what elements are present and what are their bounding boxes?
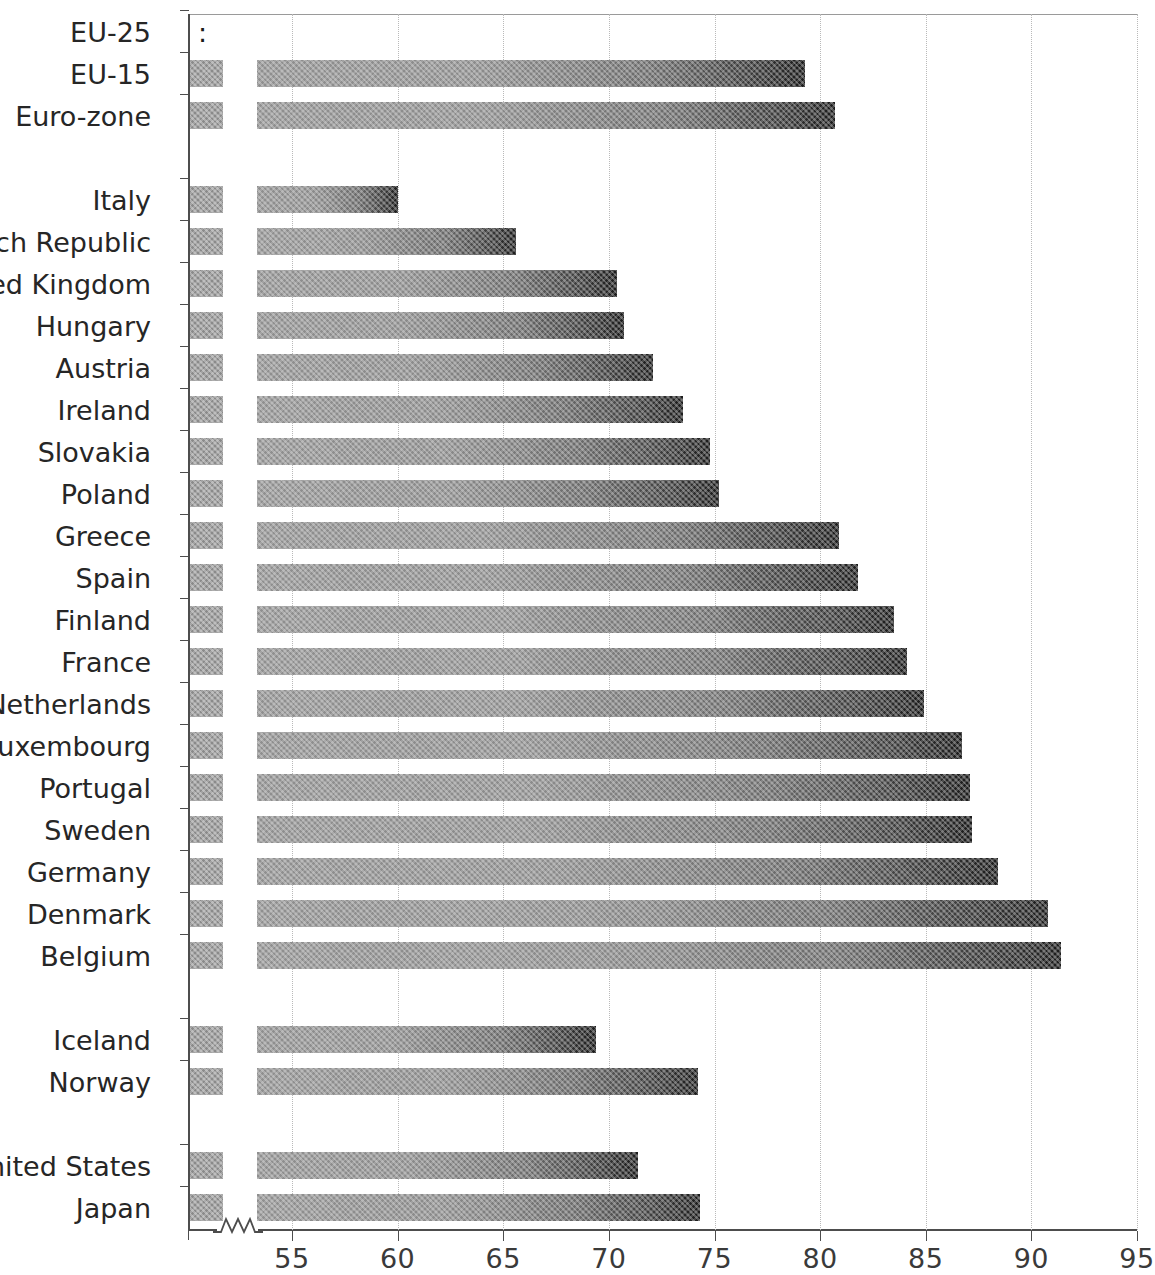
bar-fill (257, 102, 835, 129)
y-tick-mark (180, 808, 189, 809)
x-tick-label-80: 80 (780, 1243, 860, 1274)
category-label-austria: Austria (0, 355, 151, 382)
x-tick-label-90: 90 (991, 1243, 1071, 1274)
bar-fill (257, 606, 894, 633)
bar-united-states (257, 1152, 638, 1179)
bar-stub-eu-15 (190, 60, 223, 87)
bar-stub-japan (190, 1194, 223, 1221)
category-label-eu-25: EU-25 (0, 19, 151, 46)
bar-fill (257, 690, 924, 717)
bar-stub-slovakia (190, 438, 223, 465)
gridline-85 (926, 14, 927, 1230)
y-tick-mark (180, 892, 189, 893)
bar-fill (257, 1194, 700, 1221)
category-label-italy: Italy (0, 187, 151, 214)
bar-denmark (257, 900, 1048, 927)
category-label-slovakia: Slovakia (0, 439, 151, 466)
category-label-sweden: Sweden (0, 817, 151, 844)
bar-czech-republic (257, 228, 516, 255)
bar-stub-hungary (190, 312, 223, 339)
bar-fill (257, 942, 1061, 969)
bar-stub-iceland (190, 1026, 223, 1053)
y-tick-mark (180, 640, 189, 641)
bar-stub-finland (190, 606, 223, 633)
bar-fill (257, 816, 972, 843)
x-tick-label-60: 60 (358, 1243, 438, 1274)
y-tick-mark (180, 724, 189, 725)
category-label-japan: Japan (0, 1195, 151, 1222)
bar-japan (257, 1194, 700, 1221)
bar-stub-greece (190, 522, 223, 549)
y-tick-mark (180, 304, 189, 305)
bar-fill (257, 1026, 596, 1053)
category-label-ireland: Ireland (0, 397, 151, 424)
category-label-united-kingdom: United Kingdom (0, 271, 151, 298)
bar-germany (257, 858, 998, 885)
category-label-denmark: Denmark (0, 901, 151, 928)
bar-stub-ireland (190, 396, 223, 423)
bar-fill (257, 774, 970, 801)
y-tick-mark (180, 766, 189, 767)
x-tick-75 (715, 1231, 716, 1241)
bar-fill (257, 858, 998, 885)
bar-hungary (257, 312, 624, 339)
y-tick-mark (180, 220, 189, 221)
y-tick-mark (180, 178, 189, 179)
x-tick-60 (398, 1231, 399, 1241)
bar-fill (257, 732, 962, 759)
bar-eu-15 (257, 60, 805, 87)
x-tick-label-85: 85 (886, 1243, 966, 1274)
category-label-luxembourg: Luxembourg (0, 733, 151, 760)
y-tick-mark (180, 850, 189, 851)
bar-stub-austria (190, 354, 223, 381)
bar-fill (257, 900, 1048, 927)
category-label-netherlands: Netherlands (0, 691, 151, 718)
category-label-euro-zone: Euro-zone (0, 103, 151, 130)
x-tick-label-75: 75 (675, 1243, 755, 1274)
bar-stub-united-states (190, 1152, 223, 1179)
category-label-belgium: Belgium (0, 943, 151, 970)
bar-netherlands (257, 690, 924, 717)
x-tick-label-55: 55 (252, 1243, 332, 1274)
y-tick-mark (180, 514, 189, 515)
bar-stub-belgium (190, 942, 223, 969)
bar-stub-netherlands (190, 690, 223, 717)
y-tick-mark (180, 934, 189, 935)
bar-stub-czech-republic (190, 228, 223, 255)
bar-stub-poland (190, 480, 223, 507)
bar-stub-euro-zone (190, 102, 223, 129)
bar-fill (257, 228, 516, 255)
y-tick-mark (180, 262, 189, 263)
x-tick-80 (820, 1231, 821, 1241)
y-tick-mark (180, 10, 189, 11)
bar-ireland (257, 396, 683, 423)
bar-fill (257, 564, 858, 591)
bar-iceland (257, 1026, 596, 1053)
y-tick-mark (180, 1060, 189, 1061)
bar-fill (257, 354, 653, 381)
gridline-90 (1031, 14, 1032, 1230)
x-tick-55 (292, 1231, 293, 1241)
y-tick-mark (180, 682, 189, 683)
x-tick-70 (609, 1231, 610, 1241)
y-tick-mark (180, 346, 189, 347)
y-tick-mark (180, 388, 189, 389)
bar-sweden (257, 816, 972, 843)
bar-fill (257, 648, 907, 675)
category-label-poland: Poland (0, 481, 151, 508)
x-tick-85 (926, 1231, 927, 1241)
bar-fill (257, 270, 617, 297)
y-tick-mark (180, 556, 189, 557)
x-tick-label-70: 70 (569, 1243, 649, 1274)
category-label-eu-15: EU-15 (0, 61, 151, 88)
bar-stub-portugal (190, 774, 223, 801)
y-tick-mark (180, 1186, 189, 1187)
category-label-spain: Spain (0, 565, 151, 592)
y-tick-mark (180, 472, 189, 473)
bar-stub-denmark (190, 900, 223, 927)
y-tick-mark (180, 94, 189, 95)
bar-stub-france (190, 648, 223, 675)
category-label-czech-republic: Czech Republic (0, 229, 151, 256)
category-label-iceland: Iceland (0, 1027, 151, 1054)
bar-fill (257, 60, 805, 87)
